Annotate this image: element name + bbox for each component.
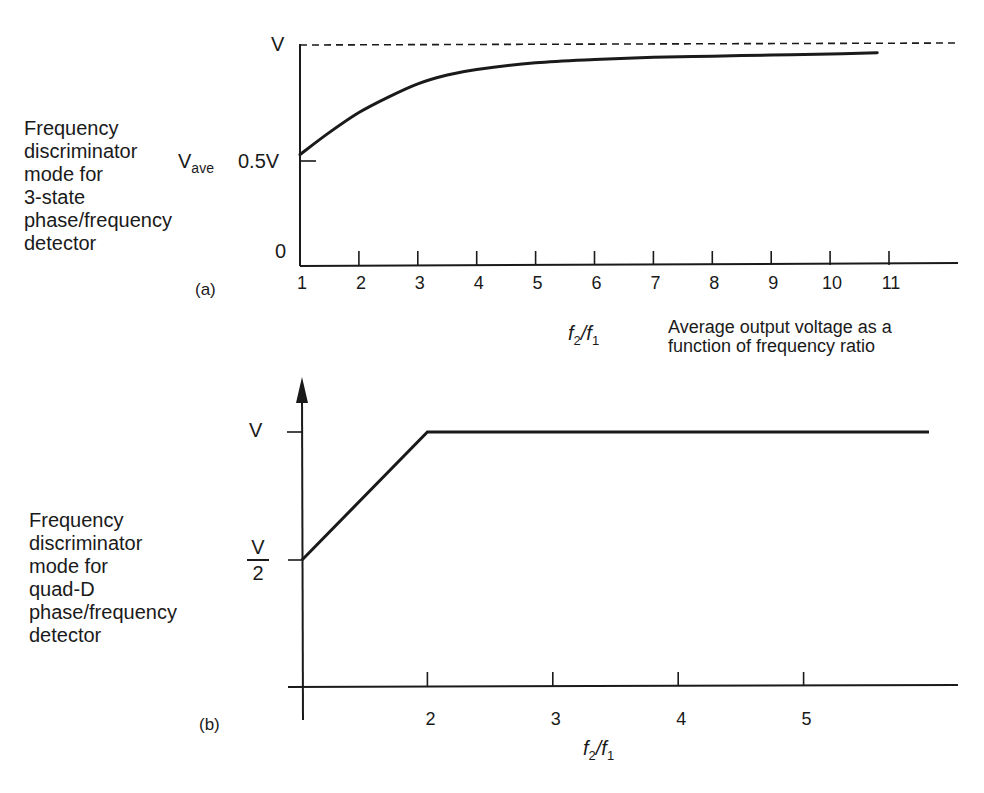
panel-a-x-axis: [300, 263, 958, 266]
plot-canvas: [0, 0, 984, 793]
panel-b-curve: [302, 432, 929, 560]
panel-b-x-ticks: [427, 672, 803, 686]
panel-a-asymptote-dashed: [300, 43, 958, 45]
panel-a-curve: [300, 53, 877, 155]
panel-b-x-axis: [288, 685, 958, 687]
panel-b-y-axis-arrow-icon: [296, 377, 308, 403]
